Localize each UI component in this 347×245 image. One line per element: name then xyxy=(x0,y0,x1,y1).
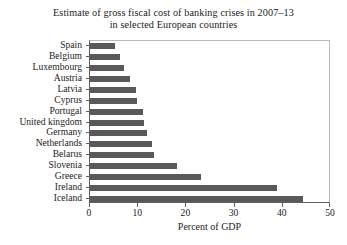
bar xyxy=(90,120,144,126)
bar-row xyxy=(90,64,329,72)
y-axis-label: Greece xyxy=(55,171,82,181)
bar-row xyxy=(90,42,329,50)
y-axis-label: Latvia xyxy=(57,84,82,94)
bar xyxy=(90,152,154,158)
bar xyxy=(90,185,277,191)
x-axis-tick-label: 20 xyxy=(181,207,191,219)
chart-title-line-2: in selected European countries xyxy=(0,19,347,31)
x-axis-tick-labels: 01020304050 xyxy=(89,207,330,220)
bar-row xyxy=(90,119,329,127)
y-axis-label: Luxembourg xyxy=(33,62,82,72)
bar-row xyxy=(90,129,329,137)
y-axis-label: Spain xyxy=(60,40,82,50)
bar-row xyxy=(90,75,329,83)
bar xyxy=(90,141,152,147)
x-axis-tick-label: 10 xyxy=(132,207,142,219)
bar-series xyxy=(90,41,329,202)
y-axis-label: Ireland xyxy=(55,182,82,192)
y-axis-label: Belarus xyxy=(53,149,82,159)
bar xyxy=(90,54,120,60)
y-axis-label: Netherlands xyxy=(36,138,82,148)
bar xyxy=(90,87,136,93)
bar-row xyxy=(90,151,329,159)
x-axis-tick-label: 50 xyxy=(325,207,335,219)
x-axis-tick-label: 0 xyxy=(87,207,92,219)
y-axis-labels: SpainBelgiumLuxembourgAustriaLatviaCypru… xyxy=(0,40,86,203)
y-axis-label: Belgium xyxy=(49,51,82,61)
x-axis-tick-label: 30 xyxy=(229,207,239,219)
y-axis-label: United kingdom xyxy=(19,117,82,127)
bar-row xyxy=(90,195,329,203)
x-axis-title: Percent of GDP xyxy=(89,221,330,232)
y-axis-label: Cyprus xyxy=(54,95,82,105)
y-axis-label: Iceland xyxy=(54,193,82,203)
bar xyxy=(90,163,177,169)
bar xyxy=(90,109,143,115)
chart-title-line-1: Estimate of gross fiscal cost of banking… xyxy=(0,7,347,19)
bar-row xyxy=(90,162,329,170)
plot-area xyxy=(89,40,330,203)
bar xyxy=(90,76,130,82)
bar-row xyxy=(90,86,329,94)
bar-row xyxy=(90,97,329,105)
bar-row xyxy=(90,184,329,192)
bar-row xyxy=(90,173,329,181)
x-axis-tick-label: 40 xyxy=(277,207,287,219)
y-axis-label: Portugal xyxy=(49,106,82,116)
bar xyxy=(90,43,115,49)
bar xyxy=(90,65,124,71)
bar xyxy=(90,174,201,180)
bar-row xyxy=(90,140,329,148)
bar-row xyxy=(90,53,329,61)
bar-row xyxy=(90,108,329,116)
chart-figure: Estimate of gross fiscal cost of banking… xyxy=(0,0,347,245)
bar xyxy=(90,98,137,104)
y-axis-label: Austria xyxy=(54,73,82,83)
y-axis-label: Germany xyxy=(46,127,82,137)
chart-title: Estimate of gross fiscal cost of banking… xyxy=(0,7,347,31)
bar xyxy=(90,130,147,136)
bar xyxy=(90,196,303,202)
y-axis-label: Slovenia xyxy=(48,160,82,170)
